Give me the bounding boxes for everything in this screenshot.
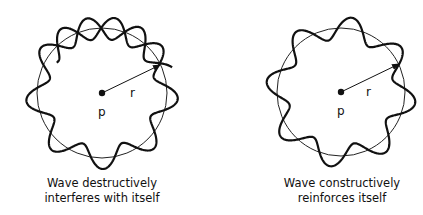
constructive-caption: Wave constructively reinforces itself	[252, 176, 423, 206]
caption-line: interferes with itself	[12, 191, 192, 206]
radius-label: r	[366, 85, 371, 99]
destructive-caption: Wave destructively interferes with itsel…	[12, 176, 192, 206]
center-label: p	[98, 105, 106, 119]
center-label: p	[337, 104, 345, 118]
caption-line: Wave constructively	[252, 176, 423, 191]
caption-line: reinforces itself	[252, 191, 423, 206]
constructive-panel: r p	[267, 18, 416, 167]
radius-label: r	[130, 86, 135, 100]
caption-line: Wave destructively	[12, 176, 192, 191]
destructive-panel: r p	[26, 18, 177, 169]
